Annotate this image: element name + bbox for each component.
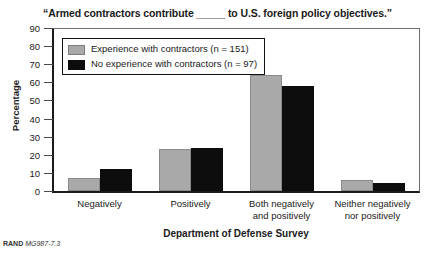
- y-axis-tick: [44, 100, 53, 101]
- y-axis-tick: [44, 173, 53, 174]
- x-axis-title: Department of Defense Survey: [52, 228, 420, 239]
- y-axis-tick-label: 60: [0, 77, 40, 88]
- legend-label: Experience with contractors (n = 151): [91, 43, 249, 54]
- legend-swatch-icon: [68, 60, 85, 70]
- bar: [282, 86, 314, 191]
- legend-item: No experience with contractors (n = 97): [68, 58, 257, 70]
- bar: [250, 75, 282, 191]
- legend-item: Experience with contractors (n = 151): [68, 43, 257, 55]
- y-axis-tick: [44, 64, 53, 65]
- y-axis-tick: [44, 119, 53, 120]
- y-axis-tick-label: 10: [0, 167, 40, 178]
- legend: Experience with contractors (n = 151) No…: [62, 38, 265, 75]
- y-axis-tick: [44, 28, 53, 29]
- y-axis-tick: [44, 46, 53, 47]
- figure-id-prefix: RAND: [3, 240, 23, 247]
- legend-label: No experience with contractors (n = 97): [91, 58, 257, 69]
- y-axis-tick: [44, 82, 53, 83]
- y-axis-tick-label: 20: [0, 149, 40, 160]
- y-axis-tick: [44, 191, 53, 192]
- x-axis-category-label: Positively: [145, 198, 236, 210]
- y-axis-tick-label: 90: [0, 23, 40, 34]
- y-axis-tick-label: 80: [0, 41, 40, 52]
- bar: [100, 169, 132, 191]
- y-axis-tick-label: 0: [0, 186, 40, 197]
- bar: [341, 180, 373, 191]
- figure-id: RAND MG987-7.3: [3, 240, 60, 247]
- x-axis-category-label: Neither negatively nor positively: [327, 198, 418, 221]
- x-axis-category-label: Both negatively and positively: [236, 198, 327, 221]
- x-axis-category-label: Negatively: [54, 198, 145, 210]
- y-axis-tick: [44, 155, 53, 156]
- y-axis-tick: [44, 137, 53, 138]
- bar: [68, 178, 100, 191]
- bar: [373, 183, 405, 191]
- y-axis-tick-label: 50: [0, 95, 40, 106]
- chart-title: “Armed contractors contribute _____ to U…: [0, 7, 435, 19]
- bar: [159, 149, 191, 191]
- y-axis-tick-label: 30: [0, 131, 40, 142]
- figure-id-number: MG987-7.3: [25, 240, 60, 247]
- legend-swatch-icon: [68, 45, 85, 55]
- bar: [191, 148, 223, 191]
- y-axis-tick-label: 70: [0, 59, 40, 70]
- y-axis-tick-label: 40: [0, 113, 40, 124]
